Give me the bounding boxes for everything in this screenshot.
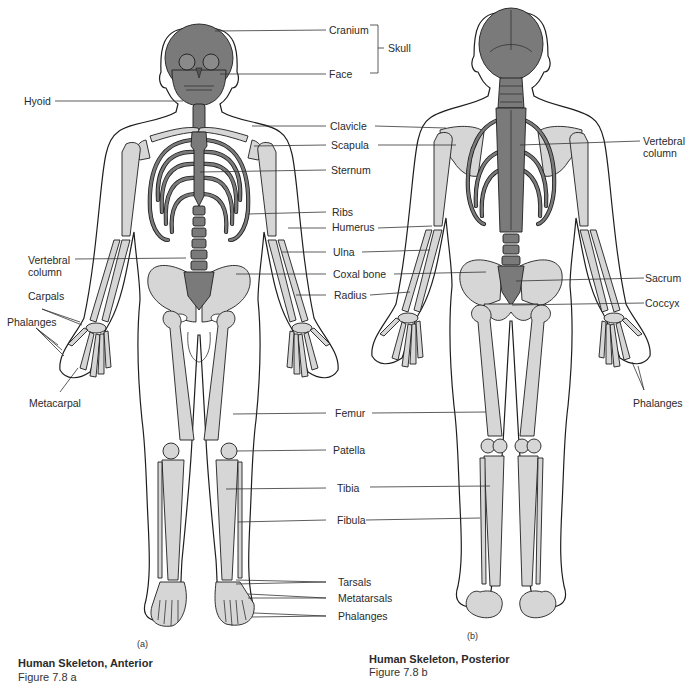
label-coxal-bone: Coxal bone bbox=[333, 268, 386, 280]
label-tarsals: Tarsals bbox=[338, 576, 371, 588]
caption-figure-posterior: Figure 7.8 b bbox=[369, 666, 428, 678]
label-cranium: Cranium bbox=[329, 24, 369, 36]
label-patella: Patella bbox=[333, 444, 365, 456]
posterior-skeleton bbox=[372, 8, 650, 618]
label-face: Face bbox=[329, 68, 352, 80]
label-scapula: Scapula bbox=[331, 139, 369, 151]
caption-title-anterior: Human Skeleton, Anterior bbox=[18, 657, 153, 669]
anterior-skeleton bbox=[60, 24, 338, 626]
label-skull: Skull bbox=[388, 42, 411, 54]
label-coccyx: Coccyx bbox=[645, 297, 679, 309]
label-sacrum: Sacrum bbox=[645, 272, 681, 284]
caption-title-posterior: Human Skeleton, Posterior bbox=[369, 653, 510, 665]
label-phalanges-hand-anterior: Phalanges bbox=[7, 316, 57, 328]
label-humerus: Humerus bbox=[332, 221, 375, 233]
label-carpals: Carpals bbox=[28, 290, 64, 302]
label-clavicle: Clavicle bbox=[330, 120, 367, 132]
label-ulna: Ulna bbox=[333, 246, 355, 258]
label-radius: Radius bbox=[334, 289, 367, 301]
label-sternum: Sternum bbox=[331, 164, 371, 176]
label-fibula: Fibula bbox=[337, 514, 366, 526]
label-ribs: Ribs bbox=[332, 206, 353, 218]
label-metacarpal: Metacarpal bbox=[29, 397, 81, 409]
label-phalanges-hand-posterior: Phalanges bbox=[633, 397, 683, 409]
label-metatarsals: Metatarsals bbox=[338, 592, 392, 604]
label-vertebral-column-posterior-2: column bbox=[643, 147, 677, 159]
label-phalanges-foot: Phalanges bbox=[338, 610, 388, 622]
label-vertebral-column-anterior-1: Vertebral bbox=[28, 254, 70, 266]
caption-figure-anterior: Figure 7.8 a bbox=[18, 671, 77, 683]
view-b-sublabel: (b) bbox=[467, 631, 478, 641]
label-hyoid: Hyoid bbox=[24, 95, 51, 107]
view-a-sublabel: (a) bbox=[137, 639, 148, 649]
label-tibia: Tibia bbox=[337, 482, 359, 494]
label-vertebral-column-posterior-1: Vertebral bbox=[643, 135, 685, 147]
label-vertebral-column-anterior-2: column bbox=[28, 266, 62, 278]
skeleton-figure: .body { fill: #ffffff; stroke: #1e1e1e; … bbox=[0, 0, 692, 687]
label-femur: Femur bbox=[335, 407, 365, 419]
